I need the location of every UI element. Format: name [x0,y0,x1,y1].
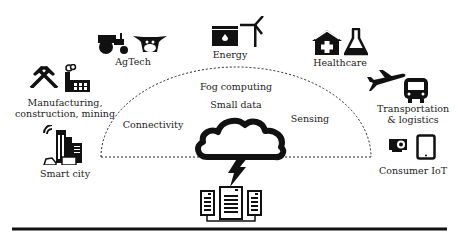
tablet-icon [416,134,436,160]
label-energy: Energy [205,49,255,60]
bus-icon [403,77,429,103]
label-agtech: AgTech [108,56,158,67]
cow-icon [133,32,167,54]
label-sensing: Sensing [285,113,335,124]
label-connectivity: Connectivity [118,119,188,130]
label-consumer-iot: Consumer IoT [370,165,456,176]
factory-icon [62,64,90,92]
label-smart-city: Smart city [30,168,100,179]
lightning-icon [222,157,250,187]
wind-turbine-icon [240,16,264,48]
label-healthcare: Healthcare [305,57,375,68]
cloud-icon [193,115,288,161]
label-small-data: Small data [196,99,276,110]
hospital-icon [312,30,342,55]
label-manufacturing-line2: construction, mining [10,108,120,119]
label-transportation-line2: & logistics [370,114,456,125]
flask-icon [344,28,368,56]
tractor-icon [96,33,130,55]
servers-icon [200,186,262,222]
oil-tank-icon [212,26,238,46]
city-buildings-wifi-icon [42,125,86,165]
label-transportation-line1: Transportation [370,103,456,114]
label-manufacturing-line1: Manufacturing, [10,97,120,108]
airplane-icon [367,69,407,91]
action-camera-icon [389,138,409,152]
label-fog-computing: Fog computing [196,81,276,92]
crossed-hammers-icon [27,66,61,88]
